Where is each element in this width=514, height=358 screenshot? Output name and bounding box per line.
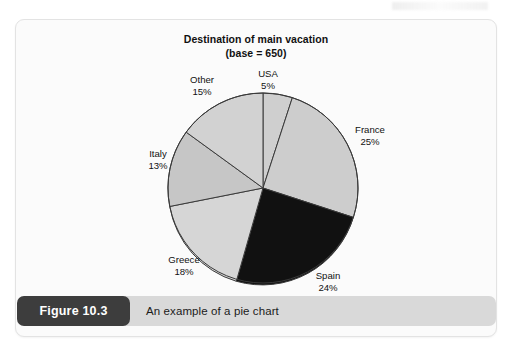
- figure-number-badge: Figure 10.3: [17, 296, 130, 326]
- chart-area: Destination of main vacation (base = 650…: [16, 20, 496, 294]
- pie-label-usa: USA 5%: [244, 68, 292, 92]
- pie-label-france-value: 25%: [340, 136, 400, 148]
- pie-chart-svg: [16, 20, 497, 294]
- pie-label-usa-name: USA: [258, 68, 278, 79]
- pie-label-italy-value: 13%: [134, 160, 182, 172]
- pie-label-spain-name: Spain: [316, 270, 341, 281]
- pie-label-other-name: Other: [190, 74, 214, 85]
- pie-label-other-value: 15%: [176, 86, 228, 98]
- pie-label-spain-value: 24%: [300, 282, 356, 294]
- pie-chart: USA 5% France 25% Spain 24% Greece 18% I…: [16, 20, 497, 294]
- pie-label-greece-value: 18%: [152, 266, 216, 278]
- scan-artifact: [392, 2, 488, 10]
- figure-caption-bar: Figure 10.3 An example of a pie chart: [16, 296, 497, 326]
- pie-label-italy: Italy 13%: [134, 148, 182, 172]
- figure-caption-text: An example of a pie chart: [146, 296, 279, 326]
- pie-label-italy-name: Italy: [149, 148, 167, 159]
- pie-label-spain: Spain 24%: [300, 270, 356, 294]
- pie-label-france-name: France: [355, 124, 385, 135]
- pie-label-greece: Greece 18%: [152, 254, 216, 278]
- pie-label-other: Other 15%: [176, 74, 228, 98]
- figure-card: Destination of main vacation (base = 650…: [15, 19, 497, 337]
- pie-label-france: France 25%: [340, 124, 400, 148]
- pie-label-greece-name: Greece: [168, 254, 199, 265]
- pie-label-usa-value: 5%: [244, 80, 292, 92]
